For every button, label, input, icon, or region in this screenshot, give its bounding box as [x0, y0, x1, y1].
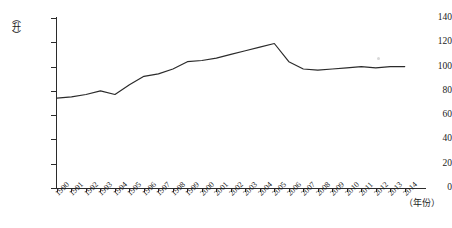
scan-artifact-speck	[377, 57, 380, 60]
plot-area	[57, 18, 425, 188]
x-axis-unit-label: （年份）	[404, 199, 440, 208]
data-series-line	[57, 44, 405, 99]
chart-figure: （升） 020406080100120140 19901991199219931…	[0, 0, 452, 228]
y-axis-unit-label: （升）	[4, 14, 20, 38]
